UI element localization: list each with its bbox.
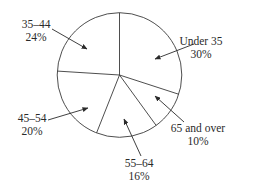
label-pct: 10% [187, 135, 209, 147]
slice-label-55-64: 55–64 16% [125, 157, 154, 182]
label-name: 35–44 [22, 18, 51, 30]
label-name: 45–54 [18, 112, 47, 124]
slice-label-35-44: 35–44 24% [22, 18, 51, 43]
label-pct: 16% [128, 170, 150, 182]
slice-label-over65: 65 and over 10% [171, 122, 225, 147]
pie-chart: Under 35 30% 65 and over 10% 55–64 16% 4… [0, 0, 256, 190]
slice-label-45-54: 45–54 20% [18, 112, 47, 137]
label-pct: 20% [21, 125, 43, 137]
label-pct: 24% [25, 31, 47, 43]
label-pct: 30% [190, 48, 212, 60]
label-name: 55–64 [125, 157, 154, 169]
label-name: 65 and over [171, 122, 225, 134]
label-name: Under 35 [179, 35, 222, 47]
